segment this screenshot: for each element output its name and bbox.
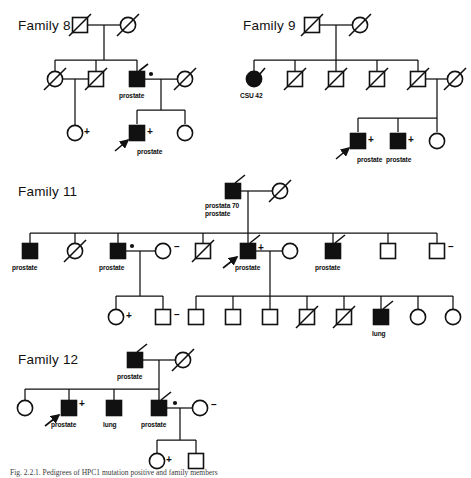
pedigree-figure: Family 8 Family 9 Family 11 Family 12 pr… bbox=[0, 0, 471, 478]
f11-g1-label-prostate: prostate bbox=[205, 210, 230, 217]
f8-g2-male-deceased bbox=[85, 68, 107, 90]
f12-g3-female-plus: + bbox=[166, 455, 172, 465]
figure-caption: Fig. 2.2.1. Pedigrees of HPC1 mutation p… bbox=[10, 468, 465, 477]
f11-g3-male-minus: – bbox=[174, 310, 180, 320]
f11-g3-female-2 bbox=[445, 309, 460, 324]
f9-g2-female-affected-deceased bbox=[246, 68, 265, 87]
f11-g2-male-minus: – bbox=[448, 242, 454, 252]
f11-g3-male-affected-lung bbox=[374, 301, 394, 325]
f8-g1-male-deceased bbox=[69, 14, 91, 36]
f8-g2-male-affected-deceased-carrier bbox=[130, 64, 154, 87]
f12-g2-male-affected-carrier bbox=[152, 392, 178, 416]
f11-g3-label-lung: lung bbox=[372, 330, 386, 337]
f12-g1-label-prostate: prostate bbox=[117, 373, 142, 380]
f9-g3-label-prostate-1: prostate bbox=[357, 156, 382, 163]
family-9-symbols bbox=[246, 14, 466, 159]
f11-g2-spouse-minus: – bbox=[174, 242, 180, 252]
family-9-title: Family 9 bbox=[243, 18, 296, 33]
f11-g2-label-prostate-3: prostate bbox=[315, 264, 340, 271]
f11-g1-male-affected-deceased bbox=[226, 175, 246, 199]
f11-g3-male-noncarrier bbox=[156, 310, 171, 325]
f9-g3-male-affected bbox=[391, 134, 406, 149]
pedigree-canvas bbox=[0, 0, 471, 478]
family-11-symbols bbox=[23, 175, 461, 328]
family-8-symbols bbox=[44, 14, 196, 151]
f11-g2-male-unaffected-1 bbox=[381, 244, 396, 259]
f9-g3-label-prostate-2: prostate bbox=[386, 156, 411, 163]
f12-g2-proband-plus: + bbox=[79, 399, 85, 409]
f12-g3-female-carrier bbox=[149, 453, 164, 468]
f8-g2-female-deceased bbox=[44, 68, 66, 90]
f11-g2-label-prostate-1: prostate bbox=[12, 264, 37, 271]
f9-g3-male2-plus: + bbox=[408, 135, 414, 145]
f11-g3-male-3 bbox=[263, 310, 278, 325]
f8-g2-female-deceased-spouse bbox=[174, 68, 196, 90]
f11-g3-male-1 bbox=[189, 310, 204, 325]
f11-g3-male-deceased-2 bbox=[333, 306, 355, 328]
f9-g2-female-deceased-spouse bbox=[444, 68, 466, 90]
f12-g2-label-prostate: prostate bbox=[141, 421, 166, 428]
f11-g2-label-prostate-2: prostate bbox=[99, 264, 124, 271]
f11-g3-male-deceased-1 bbox=[296, 306, 318, 328]
f8-g3-label-prostate: prostate bbox=[137, 148, 162, 155]
f8-g2-label-prostate: prostate bbox=[119, 92, 144, 99]
f11-g2-male-affected-1 bbox=[23, 244, 38, 259]
f12-g2-male-affected-lung bbox=[107, 401, 122, 416]
f9-g2-label-csu42: CSU 42 bbox=[240, 92, 263, 99]
family-12-title: Family 12 bbox=[18, 352, 78, 367]
f9-g2-male-deceased-4 bbox=[407, 68, 429, 90]
f9-g2-male-deceased-1 bbox=[284, 68, 306, 90]
f11-g3-male-2 bbox=[226, 310, 241, 325]
f11-g1-female-deceased bbox=[269, 180, 291, 202]
f12-g2-female bbox=[17, 400, 32, 415]
f11-g3-female-carrier bbox=[108, 309, 123, 324]
f11-g2-female-spouse-noncarrier bbox=[155, 243, 170, 258]
f9-g3-male1-plus: + bbox=[368, 135, 374, 145]
f9-g2-male-deceased-2 bbox=[325, 68, 347, 90]
f8-g3-female bbox=[67, 125, 82, 140]
f12-g3-male bbox=[189, 454, 204, 469]
f8-g3-female-unaffected bbox=[177, 125, 192, 140]
family-8-title: Family 8 bbox=[18, 18, 71, 33]
f11-g2-male-deceased bbox=[192, 240, 214, 262]
f11-g2-female-spouse bbox=[282, 243, 297, 258]
f12-g1-male-affected-deceased bbox=[128, 344, 148, 368]
f11-g2-male-affected-2 bbox=[326, 235, 346, 259]
f12-g2-spouse-minus: – bbox=[211, 400, 217, 410]
f11-g3-female-plus: + bbox=[126, 311, 132, 321]
f8-g3-female-plus: + bbox=[84, 127, 90, 137]
f12-g1-female-deceased bbox=[172, 349, 194, 371]
f12-g2-label-prostate-proband: prostate bbox=[51, 421, 76, 428]
f8-g3-male-plus: + bbox=[147, 127, 153, 137]
f12-g2-label-lung: lung bbox=[103, 421, 117, 428]
f9-g1-female-deceased bbox=[349, 14, 371, 36]
f8-g1-female-deceased bbox=[117, 14, 139, 36]
f11-g2-proband-plus: + bbox=[258, 243, 264, 253]
family-11-title: Family 11 bbox=[18, 184, 77, 199]
f11-g2-male-unaffected-2 bbox=[430, 244, 445, 259]
f11-g2-female-deceased bbox=[64, 240, 86, 262]
f11-g2-label-prostate-proband: prostate bbox=[235, 264, 260, 271]
f9-g2-male-deceased-3 bbox=[366, 68, 388, 90]
f9-g3-female bbox=[429, 133, 444, 148]
f12-g2-female-spouse-noncarrier bbox=[192, 400, 207, 415]
f9-g1-male-deceased bbox=[301, 14, 323, 36]
f11-g1-label-prostata70: prostata 70 bbox=[205, 202, 239, 209]
f11-g3-female-1 bbox=[410, 309, 425, 324]
